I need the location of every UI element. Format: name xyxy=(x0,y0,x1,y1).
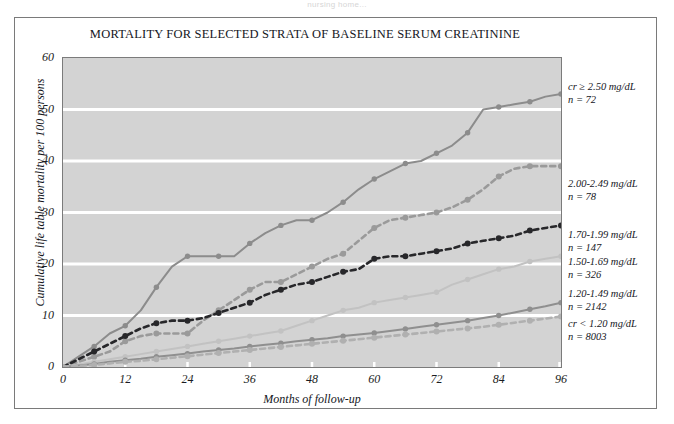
series-marker xyxy=(403,326,408,331)
y-tick-label: 60 xyxy=(14,50,54,65)
series-marker xyxy=(465,240,471,246)
series-marker xyxy=(402,215,408,221)
series-marker xyxy=(340,251,346,257)
series-marker xyxy=(153,356,159,362)
series-marker xyxy=(558,300,561,305)
y-axis-label: Cumulative life table mortality per 100 … xyxy=(33,43,48,343)
series-marker xyxy=(402,332,408,338)
x-tick-label: 0 xyxy=(43,372,83,387)
series-marker xyxy=(91,344,96,349)
series-marker xyxy=(216,350,222,356)
annotation-n: n = 78 xyxy=(568,191,638,204)
series-marker xyxy=(558,222,561,228)
series-marker xyxy=(309,264,315,270)
series-marker xyxy=(340,338,346,344)
series-marker xyxy=(278,328,283,333)
series-marker xyxy=(434,210,440,216)
x-axis-label: Months of follow-up xyxy=(62,392,562,407)
series-marker xyxy=(247,241,252,246)
series-marker xyxy=(91,349,97,355)
series-marker xyxy=(496,313,501,318)
series-annotation: 1.50-1.69 mg/dLn = 326 xyxy=(568,256,638,281)
y-tick-label: 30 xyxy=(14,205,54,220)
series-canvas xyxy=(63,58,561,367)
series-marker xyxy=(496,266,501,271)
series-marker xyxy=(558,91,561,96)
series-marker xyxy=(154,284,159,289)
y-tick-label: 50 xyxy=(14,102,54,117)
series-marker xyxy=(465,197,471,203)
series-marker xyxy=(402,253,408,259)
x-tick-label: 36 xyxy=(230,372,270,387)
series-annotation: cr ≥ 2.50 mg/dLn = 72 xyxy=(568,81,636,106)
x-tick-label: 72 xyxy=(417,372,457,387)
series-marker xyxy=(247,333,252,338)
annotation-label: 2.00-2.49 mg/dL xyxy=(568,178,638,189)
series-marker xyxy=(185,254,190,259)
series-marker xyxy=(216,254,221,259)
series-marker xyxy=(527,99,532,104)
series-marker xyxy=(153,320,159,326)
series-marker xyxy=(527,228,533,234)
series-annotation: 1.70-1.99 mg/dLn = 147 xyxy=(568,229,638,254)
series-marker xyxy=(403,161,408,166)
series-marker xyxy=(465,130,470,135)
series-marker xyxy=(216,310,222,316)
series-marker xyxy=(434,328,440,334)
y-tick-label: 10 xyxy=(14,308,54,323)
series-marker xyxy=(558,254,561,259)
series-marker xyxy=(340,269,346,275)
annotation-n: n = 8003 xyxy=(568,331,637,344)
series-4 xyxy=(63,254,561,367)
series-marker xyxy=(434,248,440,254)
series-marker xyxy=(278,223,283,228)
series-marker xyxy=(247,347,253,353)
series-marker xyxy=(527,259,532,264)
annotation-n: n = 147 xyxy=(568,242,638,255)
series-marker xyxy=(558,163,561,169)
series-marker xyxy=(247,287,253,293)
series-marker xyxy=(496,104,501,109)
annotation-label: cr < 1.20 mg/dL xyxy=(568,318,637,329)
series-marker xyxy=(278,344,284,350)
series-marker xyxy=(278,287,284,293)
chart-title: MORTALITY FOR SELECTED STRATA OF BASELIN… xyxy=(40,27,570,42)
page-top-clipped-text: nursing home... xyxy=(0,0,674,14)
series-marker xyxy=(91,354,97,360)
series-line xyxy=(63,256,561,367)
annotation-label: 1.50-1.69 mg/dL xyxy=(568,256,638,267)
series-marker xyxy=(372,300,377,305)
series-marker xyxy=(434,151,439,156)
annotation-label: 1.70-1.99 mg/dL xyxy=(568,229,638,240)
annotation-n: n = 2142 xyxy=(568,301,638,314)
annotation-label: cr ≥ 2.50 mg/dL xyxy=(568,81,636,92)
series-marker xyxy=(123,323,128,328)
series-marker xyxy=(153,331,159,337)
series-marker xyxy=(465,325,471,331)
series-marker xyxy=(434,290,439,295)
series-marker xyxy=(496,322,502,328)
series-marker xyxy=(185,331,191,337)
series-marker xyxy=(122,359,128,365)
series-marker xyxy=(185,344,190,349)
y-tick-label: 20 xyxy=(14,256,54,271)
x-tick-label: 12 xyxy=(105,372,145,387)
series-marker xyxy=(247,300,253,306)
annotation-n: n = 326 xyxy=(568,269,638,282)
series-marker xyxy=(371,225,377,231)
series-marker xyxy=(309,318,314,323)
series-marker xyxy=(496,235,502,241)
y-tick-label: 40 xyxy=(14,153,54,168)
series-annotation: cr < 1.20 mg/dLn = 8003 xyxy=(568,318,637,343)
x-tick-label: 96 xyxy=(541,372,581,387)
series-marker xyxy=(371,256,377,262)
series-5 xyxy=(63,300,561,367)
series-marker xyxy=(371,335,377,341)
series-marker xyxy=(216,339,221,344)
series-marker xyxy=(309,341,315,347)
annotation-label: 1.20-1.49 mg/dL xyxy=(568,288,638,299)
x-tick-label: 60 xyxy=(354,372,394,387)
x-tick-label: 48 xyxy=(292,372,332,387)
series-marker xyxy=(122,333,128,339)
x-tick-label: 24 xyxy=(168,372,208,387)
